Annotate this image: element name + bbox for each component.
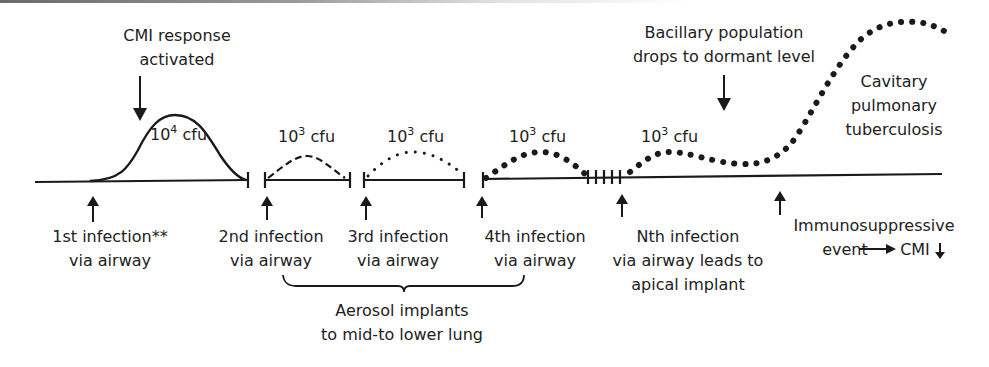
arrow-up-icon: [360, 196, 372, 220]
curve-second-infection-dashed: [268, 156, 345, 178]
arrow-down-icon: [717, 75, 731, 111]
peak-label-2: 103 cfu: [278, 125, 335, 146]
event-nth-line3: apical implant: [631, 275, 744, 294]
brace-label-line2: to mid-to lower lung: [321, 325, 483, 344]
event-4-line1: 4th infection: [484, 227, 585, 246]
cmi-response-label-line2: activated: [140, 50, 215, 69]
arrow-up-icon: [774, 191, 786, 215]
arrow-up-icon: [261, 196, 273, 220]
peak-label-4: 103 cfu: [509, 125, 566, 146]
cavitary-label-line1: Cavitary: [860, 72, 927, 91]
arrow-up-icon: [476, 196, 488, 218]
event-1-line1: 1st infection**: [52, 227, 167, 246]
dormant-label-line2: drops to dormant level: [633, 47, 815, 66]
arrow-up-icon: [616, 194, 628, 217]
tb-infection-timeline-diagram: 104 cfu 103 cfu 103 cfu 103 cfu 103 cfu …: [0, 0, 989, 367]
event-nth-line2: via airway leads to: [613, 251, 764, 270]
event-4-line2: via airway: [494, 251, 576, 270]
peak-label-3: 103 cfu: [387, 125, 444, 146]
arrow-down-small-icon: [935, 243, 945, 259]
peak-label-1: 104 cfu: [150, 123, 207, 144]
cmi-response-label-line1: CMI response: [123, 26, 230, 45]
arrow-up-icon: [87, 196, 99, 222]
curve-fourth-infection-bold-dotted: [486, 152, 585, 178]
peak-label-nth: 103 cfu: [641, 125, 698, 146]
event-2-line1: 2nd infection: [218, 227, 323, 246]
event-3-line2: via airway: [357, 251, 439, 270]
curve-third-infection-dotted: [368, 152, 460, 176]
event-3-line1: 3rd infection: [347, 227, 448, 246]
event-2-line2: via airway: [230, 251, 312, 270]
brace-aerosol-implants: [283, 275, 524, 292]
brace-label-line1: Aerosol implants: [335, 301, 468, 320]
event-immunosuppressive-cmi: CMI: [900, 240, 930, 259]
cavitary-label-line3: tuberculosis: [846, 120, 943, 139]
dormant-label-line1: Bacillary population: [645, 23, 804, 42]
event-nth-line1: Nth infection: [637, 227, 740, 246]
event-1-line2: via airway: [69, 251, 151, 270]
arrow-down-icon: [133, 76, 147, 121]
event-immunosuppressive-line1: Immunosuppressive: [793, 216, 954, 235]
cavitary-label-line2: pulmonary: [851, 96, 937, 115]
